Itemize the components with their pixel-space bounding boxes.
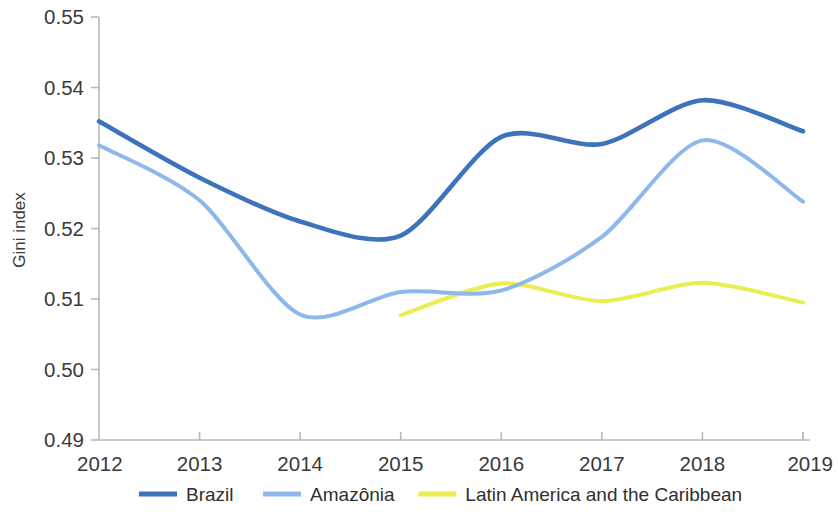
- y-tick-label: 0.55: [44, 5, 84, 28]
- series-lines: [99, 100, 803, 317]
- chart-legend: BrazilAmazôniaLatin America and the Cari…: [139, 484, 742, 505]
- y-tick-label: 0.51: [44, 287, 84, 310]
- y-axis-title: Gini index: [10, 192, 29, 268]
- x-tick-label: 2015: [378, 452, 424, 475]
- legend-label: Latin America and the Caribbean: [465, 484, 742, 505]
- legend-label: Brazil: [186, 484, 234, 505]
- x-tick-label: 2013: [177, 452, 223, 475]
- legend-item[interactable]: Latin America and the Caribbean: [418, 484, 742, 505]
- series-line-amaz-nia: [99, 140, 803, 318]
- x-tick-label: 2018: [680, 452, 726, 475]
- y-tick-label: 0.50: [44, 358, 84, 381]
- x-tick-label: 2012: [77, 452, 123, 475]
- y-tick-label: 0.49: [44, 428, 84, 451]
- legend-item[interactable]: Brazil: [139, 484, 234, 505]
- x-axis-ticks: [200, 432, 803, 440]
- x-tick-label: 2019: [787, 452, 833, 475]
- legend-item[interactable]: Amazônia: [263, 484, 395, 505]
- series-line-latin-america-and-the-caribbean: [401, 283, 803, 315]
- series-line-brazil: [99, 100, 803, 239]
- x-tick-label: 2014: [277, 452, 323, 475]
- legend-label: Amazônia: [310, 484, 395, 505]
- line-chart: 0.490.500.510.520.530.540.55 20122013201…: [0, 0, 838, 515]
- x-tick-label: 2016: [478, 452, 524, 475]
- y-tick-label: 0.54: [44, 76, 84, 99]
- y-axis-ticks: [91, 17, 99, 440]
- chart-canvas: 0.490.500.510.520.530.540.55 20122013201…: [0, 0, 838, 515]
- y-tick-label: 0.53: [44, 146, 84, 169]
- x-tick-label: 2017: [579, 452, 625, 475]
- y-axis-tick-labels: 0.490.500.510.520.530.540.55: [44, 5, 84, 451]
- x-axis-tick-labels: 20122013201420152016201720182019: [77, 452, 833, 475]
- y-tick-label: 0.52: [44, 217, 84, 240]
